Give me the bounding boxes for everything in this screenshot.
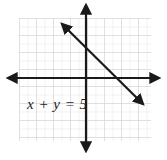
graph-figure: x + y = 5 [0, 0, 167, 160]
equation-label: x + y = 5 [27, 96, 88, 112]
coordinate-plane-svg [0, 0, 167, 160]
